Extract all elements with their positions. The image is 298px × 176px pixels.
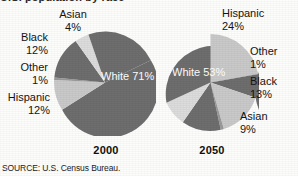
callout-black-2050-pct: 13% xyxy=(250,88,296,101)
pie-2050-inner-label-pct: 53% xyxy=(203,66,225,78)
callout-hispanic-2050-pct: 24% xyxy=(222,20,284,33)
callout-asian-2000: Asian 4% xyxy=(46,8,100,33)
callout-black-2050: Black 13% xyxy=(250,75,296,100)
callout-other-2050-pct: 1% xyxy=(250,58,296,71)
callout-black-2000: Black 12% xyxy=(4,31,48,56)
callout-other-2000-pct: 1% xyxy=(2,74,48,87)
year-label-2050: 2050 xyxy=(184,144,240,156)
callout-black-2050-name: Black xyxy=(250,75,277,87)
callout-asian-2050-pct: 9% xyxy=(240,123,292,136)
callout-other-2000-name: Other xyxy=(20,61,48,73)
callout-hispanic-2050: Hispanic 24% xyxy=(222,7,284,32)
pie-chart-2000 xyxy=(54,29,156,136)
callout-asian-2050: Asian 9% xyxy=(240,110,292,135)
callout-other-2050: Other 1% xyxy=(250,45,296,70)
figure-title-cropped: U.S. population by race xyxy=(0,0,298,3)
callout-black-2000-pct: 12% xyxy=(4,44,48,57)
population-race-pie-figure: U.S. population by race White 71% A xyxy=(0,0,298,176)
callout-other-2000: Other 1% xyxy=(2,61,48,86)
callout-hispanic-2000: Hispanic 12% xyxy=(0,91,50,116)
callout-hispanic-2050-name: Hispanic xyxy=(222,7,264,19)
year-label-2000: 2000 xyxy=(78,144,134,156)
callout-asian-2000-name: Asian xyxy=(59,8,87,20)
callout-other-2050-name: Other xyxy=(250,45,278,57)
callout-asian-2050-name: Asian xyxy=(240,110,268,122)
callout-hispanic-2000-name: Hispanic xyxy=(8,91,50,103)
source-note: SOURCE: U.S. Census Bureau. xyxy=(2,163,120,173)
callout-hispanic-2000-pct: 12% xyxy=(0,104,50,117)
pie-2000-inner-label: White 71% xyxy=(101,70,149,82)
pie-2050-inner-label: White 53% xyxy=(172,66,220,78)
pie-2000-inner-label-pct: 71% xyxy=(132,70,154,82)
pie-2050-inner-label-name: White xyxy=(172,66,200,78)
pie-2000-svg xyxy=(54,29,156,136)
callout-black-2000-name: Black xyxy=(21,31,48,43)
pie-2000-inner-label-name: White xyxy=(101,70,129,82)
callout-asian-2000-pct: 4% xyxy=(46,21,100,34)
